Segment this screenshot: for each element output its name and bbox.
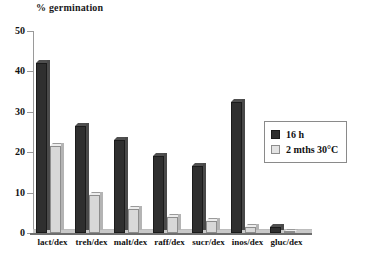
bar (153, 156, 164, 233)
bar-front-face (114, 140, 125, 233)
germination-bar-chart: % germination 01020304050 lact/dextreh/d… (0, 0, 387, 277)
y-axis-tick-label: 40 (1, 65, 25, 76)
bar-front-face (270, 227, 281, 233)
x-axis-tick-label: treh/dex (70, 237, 113, 247)
bar-side-face (139, 206, 142, 230)
legend-swatch-icon (271, 130, 280, 139)
bar (206, 221, 217, 233)
bar-group (153, 31, 192, 233)
y-axis-tick-label: 50 (1, 25, 25, 36)
bar-front-face (36, 63, 47, 233)
bar (114, 140, 125, 233)
x-axis-tick-label: malt/dex (109, 237, 152, 247)
bar-side-face (217, 218, 220, 230)
bar (231, 102, 242, 233)
bar (128, 209, 139, 233)
bar-front-face (75, 126, 86, 233)
bar-front-face (231, 102, 242, 233)
bar-side-face (281, 224, 284, 230)
bar-side-face (178, 214, 181, 230)
x-axis-tick-label: inos/dex (226, 237, 269, 247)
bar-group (192, 31, 231, 233)
bar-front-face (89, 195, 100, 233)
x-axis-tick-label: lact/dex (31, 237, 74, 247)
bar (270, 227, 281, 233)
bar-front-face (167, 217, 178, 233)
bar (167, 217, 178, 233)
x-axis-tick-label: sucr/dex (187, 237, 230, 247)
chart-title: % germination (36, 2, 103, 13)
legend-label: 16 h (286, 129, 304, 140)
bar-front-face (284, 231, 295, 233)
bar-side-face (242, 99, 245, 230)
bar (284, 232, 295, 234)
x-axis-labels: lact/dextreh/dexmalt/dexraff/dexsucr/dex… (33, 237, 313, 253)
bar-front-face (192, 166, 203, 233)
bar-side-face (61, 143, 64, 230)
bar-side-face (295, 229, 298, 231)
y-axis-labels: 01020304050 (0, 0, 25, 277)
bar (192, 166, 203, 233)
bar (89, 195, 100, 233)
y-axis-tick-label: 20 (1, 146, 25, 157)
bar-front-face (245, 227, 256, 233)
bar (75, 126, 86, 233)
legend-item: 2 mths 30°C (271, 142, 338, 157)
bar-front-face (50, 146, 61, 233)
bar-group (75, 31, 114, 233)
bar-front-face (153, 156, 164, 233)
bar-group (36, 31, 75, 233)
legend-item: 16 h (271, 127, 338, 142)
bar-side-face (256, 224, 259, 230)
y-axis-tick-label: 0 (1, 227, 25, 238)
bar (36, 63, 47, 233)
y-axis-tick-label: 30 (1, 106, 25, 117)
bar-front-face (128, 209, 139, 233)
bar (245, 227, 256, 233)
legend-label: 2 mths 30°C (286, 144, 338, 155)
bar (50, 146, 61, 233)
x-axis-tick-label: raff/dex (148, 237, 191, 247)
x-axis-tick-label: gluc/dex (265, 237, 308, 247)
x-axis-line (30, 233, 312, 235)
bar-front-face (206, 221, 217, 233)
bar-group (114, 31, 153, 233)
legend: 16 h 2 mths 30°C (264, 121, 347, 163)
bar-side-face (100, 192, 103, 230)
legend-swatch-icon (271, 145, 280, 154)
y-axis-tick-label: 10 (1, 187, 25, 198)
